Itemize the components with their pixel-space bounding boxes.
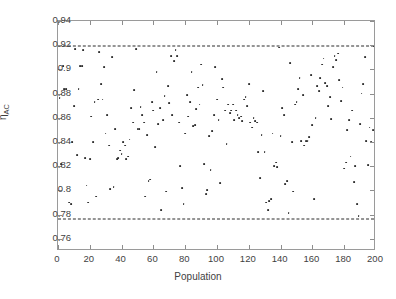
data-point bbox=[280, 135, 282, 137]
data-point bbox=[310, 75, 312, 77]
data-point bbox=[313, 198, 315, 200]
data-point bbox=[195, 108, 197, 110]
data-point bbox=[232, 104, 234, 106]
data-point bbox=[249, 122, 251, 124]
data-point bbox=[256, 122, 258, 124]
reference-line-lower-bound bbox=[58, 218, 374, 219]
data-point bbox=[311, 124, 313, 126]
data-point bbox=[304, 145, 306, 147]
data-point bbox=[186, 94, 188, 96]
data-point bbox=[130, 107, 132, 109]
data-point bbox=[119, 150, 121, 152]
data-layer bbox=[58, 21, 374, 249]
x-tick-mark bbox=[185, 245, 186, 249]
y-tick-mark-right bbox=[370, 215, 374, 216]
data-point bbox=[183, 203, 185, 205]
data-point bbox=[219, 182, 221, 184]
data-point bbox=[122, 141, 124, 143]
data-point bbox=[92, 141, 94, 143]
data-point bbox=[345, 162, 347, 164]
x-tick-label: 0 bbox=[54, 253, 59, 264]
data-point bbox=[297, 88, 299, 90]
data-point bbox=[343, 168, 345, 170]
data-point bbox=[75, 48, 77, 50]
data-point bbox=[178, 122, 180, 124]
data-point bbox=[164, 95, 166, 97]
data-point bbox=[243, 99, 245, 101]
y-axis-title: ηAC bbox=[0, 104, 11, 120]
data-point bbox=[156, 71, 158, 73]
figure-canvas: 0.760.780.80.820.840.860.880.90.920.94 0… bbox=[0, 0, 396, 299]
data-point bbox=[286, 180, 288, 182]
y-tick-label: 0.88 bbox=[53, 88, 72, 98]
data-point bbox=[300, 140, 302, 142]
data-point bbox=[224, 110, 226, 112]
data-point bbox=[291, 141, 293, 143]
x-tick-mark bbox=[122, 245, 123, 249]
data-point bbox=[340, 100, 342, 102]
data-point bbox=[181, 187, 183, 189]
data-point bbox=[242, 121, 244, 123]
data-point bbox=[264, 151, 266, 153]
data-point bbox=[246, 105, 248, 107]
data-point bbox=[84, 157, 86, 159]
data-point bbox=[335, 59, 337, 61]
data-point bbox=[172, 115, 174, 117]
data-point bbox=[234, 119, 236, 121]
data-point bbox=[110, 188, 112, 190]
data-point bbox=[98, 52, 100, 54]
data-point bbox=[108, 145, 110, 147]
data-point bbox=[261, 134, 263, 136]
data-point bbox=[191, 71, 193, 73]
data-point bbox=[167, 85, 169, 87]
data-point bbox=[114, 128, 116, 130]
y-tick-label: 0.82 bbox=[53, 160, 72, 170]
data-point bbox=[125, 158, 127, 160]
data-point bbox=[364, 56, 366, 58]
data-point bbox=[124, 145, 126, 147]
x-tick-mark-top bbox=[185, 21, 186, 25]
data-point bbox=[272, 133, 274, 135]
data-point bbox=[222, 87, 224, 89]
x-tick-mark bbox=[90, 245, 91, 249]
data-point bbox=[113, 186, 115, 188]
y-tick-mark-right bbox=[370, 118, 374, 119]
data-point bbox=[221, 78, 223, 80]
data-point bbox=[71, 141, 73, 143]
data-point bbox=[372, 129, 374, 131]
y-tick-mark-right bbox=[370, 142, 374, 143]
data-point bbox=[121, 153, 123, 155]
data-point bbox=[138, 128, 140, 130]
data-point bbox=[154, 146, 156, 148]
x-axis-title: Population bbox=[0, 271, 396, 282]
data-point bbox=[100, 83, 102, 85]
x-tick-mark bbox=[281, 245, 282, 249]
y-tick-label: 0.9 bbox=[58, 63, 71, 73]
data-point bbox=[283, 115, 285, 117]
data-point bbox=[162, 119, 164, 121]
data-point bbox=[81, 65, 83, 67]
data-point bbox=[95, 196, 97, 198]
y-tick-label: 0.94 bbox=[53, 15, 72, 25]
x-tick-label: 140 bbox=[272, 253, 288, 264]
data-point bbox=[356, 203, 358, 205]
data-point bbox=[165, 191, 167, 193]
x-tick-mark-top bbox=[217, 21, 218, 25]
data-point bbox=[361, 93, 363, 95]
data-point bbox=[235, 110, 237, 112]
x-tick-mark-top bbox=[122, 21, 123, 25]
data-point bbox=[339, 79, 341, 81]
data-point bbox=[89, 158, 91, 160]
data-point bbox=[367, 164, 369, 166]
data-point bbox=[326, 85, 328, 87]
x-tick-label: 100 bbox=[208, 253, 224, 264]
data-point bbox=[257, 151, 259, 153]
y-tick-label: 0.8 bbox=[58, 184, 71, 194]
data-point bbox=[315, 117, 317, 119]
data-point bbox=[159, 107, 161, 109]
data-point bbox=[187, 116, 189, 118]
data-point bbox=[332, 66, 334, 68]
data-point bbox=[346, 129, 348, 131]
x-tick-mark-top bbox=[90, 21, 91, 25]
data-point bbox=[173, 60, 175, 62]
